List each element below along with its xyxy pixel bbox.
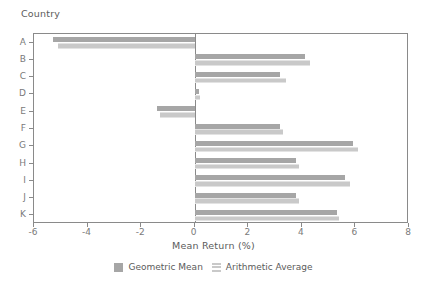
bar-geometric-mean xyxy=(195,158,297,163)
y-axis-tick xyxy=(29,111,33,112)
bar-row xyxy=(34,51,407,68)
bar-row xyxy=(34,69,407,86)
y-axis-label-e: E xyxy=(20,106,26,116)
bar-arithmetic-average xyxy=(195,60,310,66)
bar-arithmetic-average xyxy=(195,129,283,135)
mean-return-bar-chart: Country ABCDEFGHIJK -6-4-202468 Mean Ret… xyxy=(0,0,427,293)
bar-arithmetic-average xyxy=(195,147,358,153)
bar-row xyxy=(34,86,407,103)
x-axis-label-8: 8 xyxy=(405,227,411,237)
bar-arithmetic-average xyxy=(195,181,350,187)
bar-row xyxy=(34,189,407,206)
bar-arithmetic-average xyxy=(195,198,299,204)
x-axis-label-2: 2 xyxy=(244,227,250,237)
y-axis-label-i: I xyxy=(23,175,26,185)
bar-arithmetic-average xyxy=(160,112,195,118)
bar-row xyxy=(34,155,407,172)
y-axis-tick xyxy=(29,163,33,164)
bar-row xyxy=(34,207,407,224)
bar-rows xyxy=(34,34,407,222)
bar-arithmetic-average xyxy=(195,164,299,170)
y-axis-label-j: J xyxy=(23,192,26,202)
plot-area xyxy=(33,33,408,223)
y-axis-title: Country xyxy=(21,8,60,19)
bar-arithmetic-average xyxy=(58,43,195,49)
bar-geometric-mean xyxy=(195,141,353,146)
y-axis-label-b: B xyxy=(20,54,26,64)
bar-geometric-mean xyxy=(195,124,281,129)
x-axis-label-neg2: -2 xyxy=(136,227,145,237)
bar-geometric-mean xyxy=(195,175,345,180)
legend-item-arithmetic-average[interactable]: Arithmetic Average xyxy=(212,262,313,272)
bar-geometric-mean xyxy=(195,210,337,215)
bar-row xyxy=(34,138,407,155)
bar-geometric-mean xyxy=(195,54,305,59)
chart-legend: Geometric MeanArithmetic Average xyxy=(0,262,427,272)
x-axis-label-6: 6 xyxy=(352,227,358,237)
bar-row xyxy=(34,34,407,51)
bar-arithmetic-average xyxy=(195,95,200,101)
y-axis-label-f: F xyxy=(21,123,26,133)
y-axis-tick xyxy=(29,197,33,198)
legend-item-geometric-mean[interactable]: Geometric Mean xyxy=(114,262,202,272)
x-axis-label-0: 0 xyxy=(191,227,197,237)
legend-label: Geometric Mean xyxy=(128,262,202,272)
y-axis-tick xyxy=(29,128,33,129)
y-axis-tick xyxy=(29,214,33,215)
x-axis-label-neg6: -6 xyxy=(29,227,38,237)
y-axis-label-a: A xyxy=(20,37,26,47)
y-axis-label-d: D xyxy=(19,88,26,98)
bar-row xyxy=(34,120,407,137)
y-axis-tick xyxy=(29,145,33,146)
bar-arithmetic-average xyxy=(195,216,340,222)
solid-swatch-icon xyxy=(114,263,123,272)
y-axis-tick xyxy=(29,76,33,77)
y-axis-label-c: C xyxy=(20,71,26,81)
bar-geometric-mean xyxy=(195,89,199,94)
bar-geometric-mean xyxy=(53,37,195,42)
y-axis-tick xyxy=(29,180,33,181)
bar-arithmetic-average xyxy=(195,78,286,84)
striped-swatch-icon xyxy=(212,263,221,272)
bar-geometric-mean xyxy=(195,72,281,77)
y-axis-tick xyxy=(29,42,33,43)
bar-geometric-mean xyxy=(195,193,297,198)
x-axis-label-neg4: -4 xyxy=(82,227,91,237)
bar-row xyxy=(34,103,407,120)
x-axis-title: Mean Return (%) xyxy=(0,240,427,251)
y-axis-tick xyxy=(29,93,33,94)
y-axis-tick xyxy=(29,59,33,60)
x-axis-label-4: 4 xyxy=(298,227,304,237)
y-axis-label-g: G xyxy=(19,140,26,150)
bar-row xyxy=(34,172,407,189)
bar-geometric-mean xyxy=(157,106,195,111)
y-axis-label-k: K xyxy=(20,209,26,219)
legend-label: Arithmetic Average xyxy=(226,262,313,272)
y-axis-label-h: H xyxy=(19,158,26,168)
